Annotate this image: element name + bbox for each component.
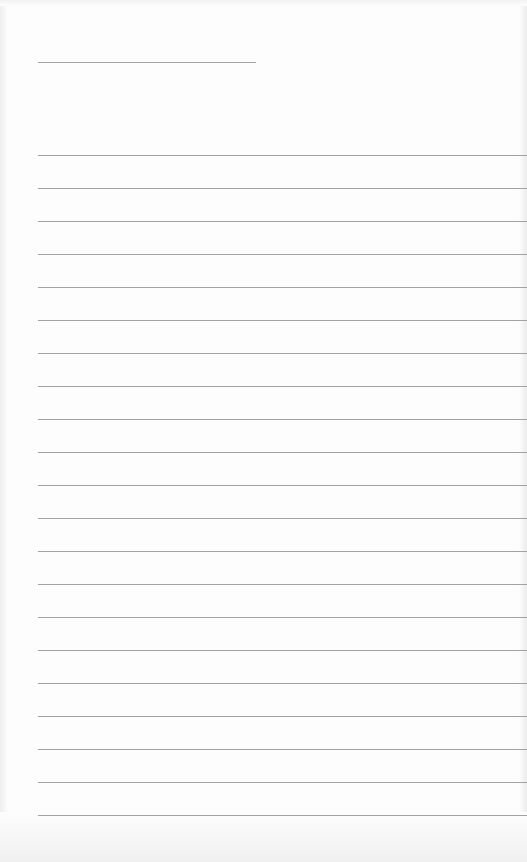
ruled-line <box>38 749 527 750</box>
ruled-line <box>38 617 527 618</box>
ruled-line <box>38 221 527 222</box>
ruled-line <box>38 485 527 486</box>
ruled-line <box>38 155 527 156</box>
ruled-line <box>38 254 527 255</box>
ruled-line <box>38 320 527 321</box>
ruled-line <box>38 386 527 387</box>
ruled-line <box>38 188 527 189</box>
ruled-line <box>38 584 527 585</box>
ruled-line <box>38 287 527 288</box>
ruled-line <box>38 716 527 717</box>
ruled-line <box>38 353 527 354</box>
ruled-line <box>38 419 527 420</box>
ruled-line <box>38 683 527 684</box>
ruled-lines <box>38 0 527 862</box>
ruled-line <box>38 551 527 552</box>
ruled-line <box>38 815 527 816</box>
page-edge-left <box>0 0 8 862</box>
ruled-line <box>38 518 527 519</box>
lined-paper-page <box>0 0 527 862</box>
ruled-line <box>38 650 527 651</box>
ruled-line <box>38 452 527 453</box>
ruled-line <box>38 782 527 783</box>
